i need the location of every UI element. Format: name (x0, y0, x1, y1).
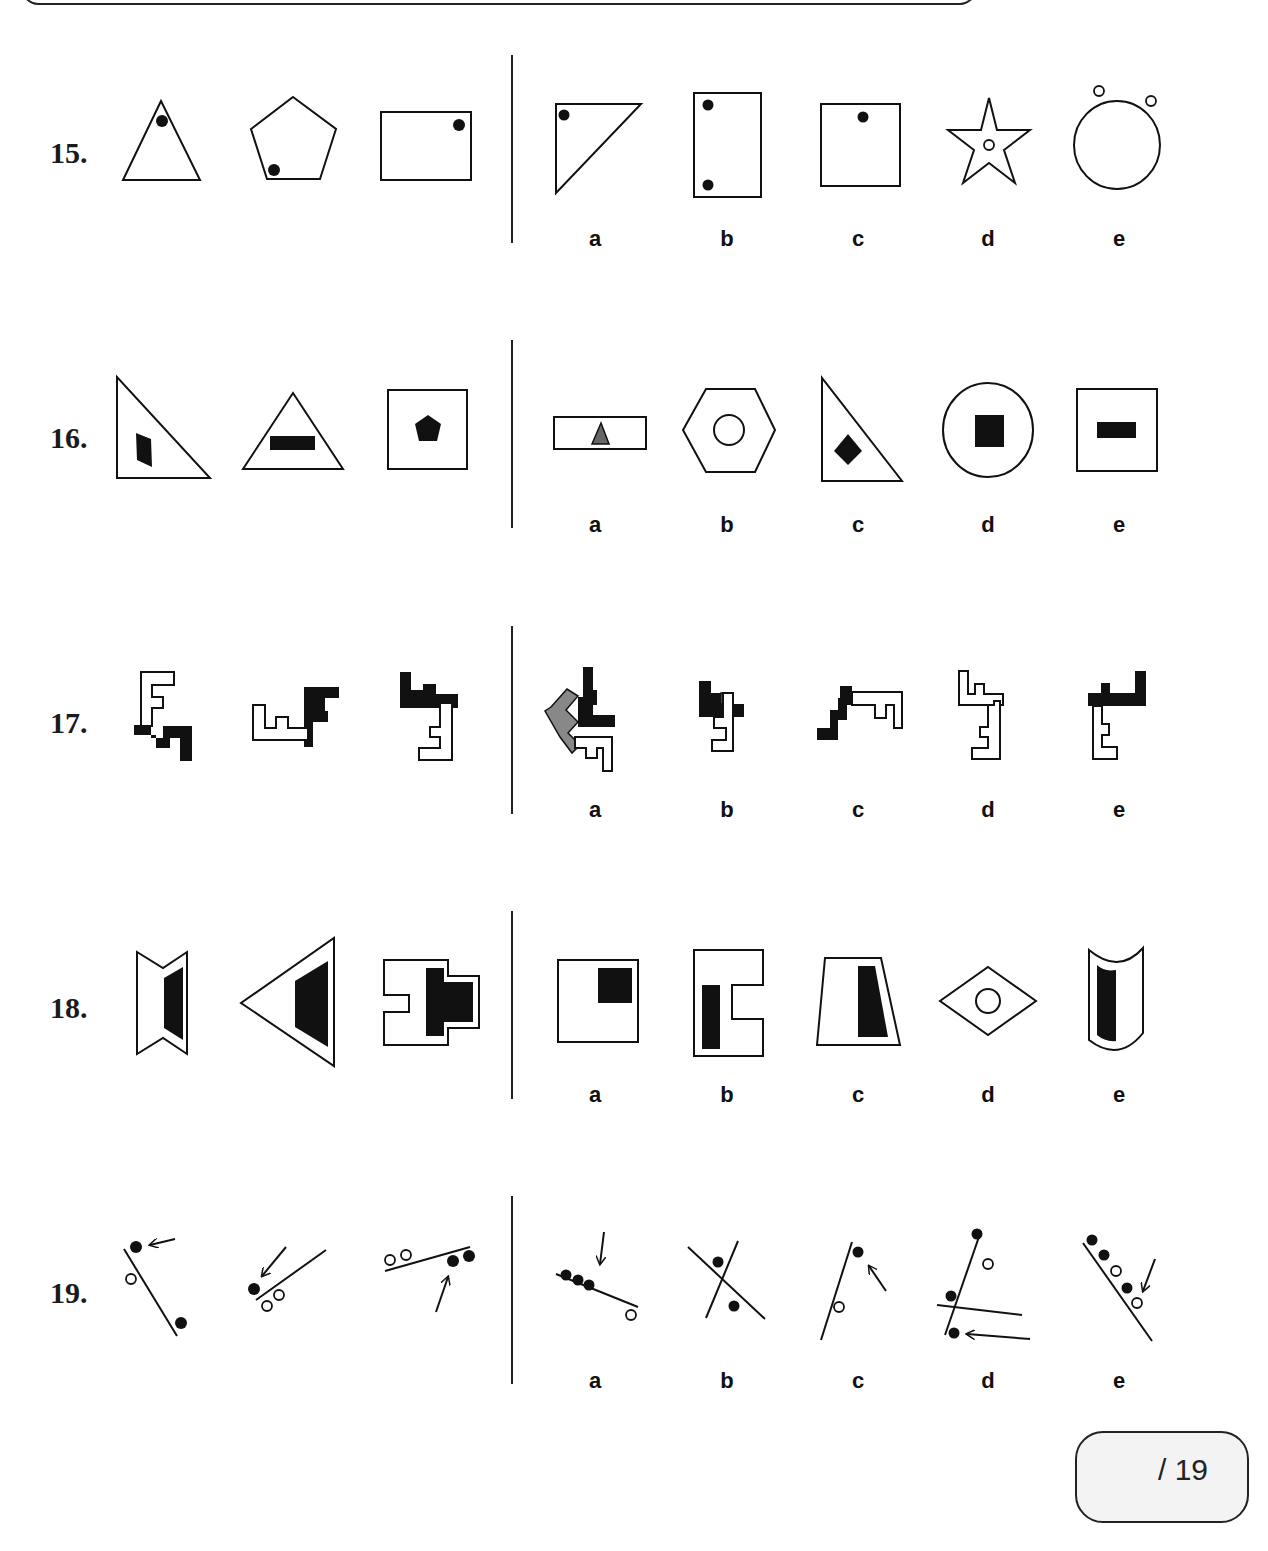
option-19-c[interactable]: c (843, 1368, 873, 1394)
option-19-a[interactable]: a (580, 1368, 610, 1394)
question-19-figures (0, 0, 1268, 1551)
score-total: / 19 (1158, 1453, 1208, 1487)
option-19-d[interactable]: d (973, 1368, 1003, 1394)
option-19-e[interactable]: e (1104, 1368, 1134, 1394)
option-19-b[interactable]: b (712, 1368, 742, 1394)
